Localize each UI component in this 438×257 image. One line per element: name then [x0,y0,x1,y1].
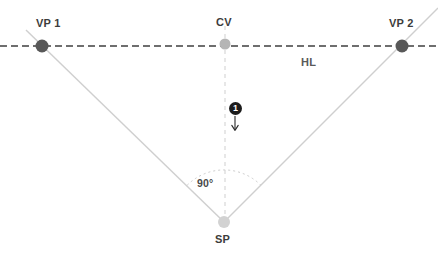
diagram-canvas [0,0,438,257]
sight-line-right [224,8,438,222]
station-point-label: SP [215,234,230,245]
direction-arrow-icon [232,116,238,130]
step-badge-1[interactable]: 1 [229,102,242,115]
vanishing-point-2-label: VP 2 [389,18,413,29]
sight-line-left [26,30,224,222]
vanishing-point-1-dot [36,40,49,53]
center-of-vision-label: CV [216,17,232,28]
vanishing-point-2-dot [396,40,409,53]
angle-label: 90° [197,178,213,189]
center-of-vision-dot [220,39,231,50]
perspective-diagram: VP 1 CV VP 2 HL 90° SP 1 [0,0,438,257]
station-point-dot [218,216,230,228]
horizon-line-label: HL [301,57,316,68]
vanishing-point-1-label: VP 1 [36,18,60,29]
